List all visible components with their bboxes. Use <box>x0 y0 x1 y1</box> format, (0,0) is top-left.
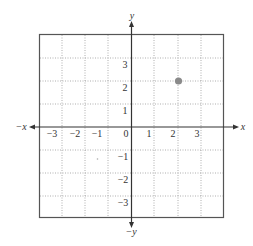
y-tick-label: −2 <box>118 175 129 185</box>
coordinate-plane <box>0 0 253 246</box>
data-point <box>175 77 182 84</box>
x-tick-label: −2 <box>70 129 81 139</box>
x-tick-label: 2 <box>171 129 176 139</box>
y-neg-axis-label: −y <box>125 227 136 237</box>
x-tick-label: −1 <box>92 129 103 139</box>
y-tick-label: 2 <box>123 83 128 93</box>
y-tick-label: −3 <box>118 198 129 208</box>
y-axis-arrow-up-icon <box>129 21 134 27</box>
x-tick-label: 3 <box>195 129 200 139</box>
y-tick-label: 1 <box>123 106 128 116</box>
x-axis <box>29 125 239 130</box>
x-tick-label: −3 <box>47 129 58 139</box>
y-tick-label: 3 <box>123 60 128 70</box>
x-axis-arrow-right-icon <box>233 125 239 130</box>
x-tick-label: 1 <box>147 129 152 139</box>
x-axis-arrow-left-icon <box>29 125 35 130</box>
x-axis-label: x <box>241 122 245 132</box>
y-axis-label: y <box>130 11 134 21</box>
x-neg-axis-label: −x <box>15 122 26 132</box>
speck-mark <box>97 158 99 160</box>
y-axis <box>129 21 134 228</box>
y-tick-label: −1 <box>118 152 129 162</box>
origin-label: 0 <box>124 129 129 139</box>
